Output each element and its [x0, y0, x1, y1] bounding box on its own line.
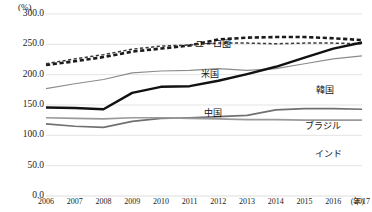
x-axis-tick: 2008	[95, 198, 111, 206]
series-label-china: 中国	[204, 109, 222, 118]
x-axis-tick: 2016	[325, 198, 341, 206]
y-axis-tick: 300.0	[0, 9, 44, 19]
y-axis-tick: 50.0	[0, 161, 44, 171]
plot-area: ユーロ圏米国韓国中国ブラジルインド	[46, 14, 362, 196]
series-label-korea: 韓国	[316, 86, 334, 95]
x-axis-tick: 2011	[182, 198, 198, 206]
series-label-india: インド	[315, 150, 342, 159]
y-axis-tick: 150.0	[0, 100, 44, 110]
x-axis-tick: 2015	[297, 198, 313, 206]
x-axis-tick: 2009	[124, 198, 140, 206]
y-axis-tick: 250.0	[0, 39, 44, 49]
series-label-usa: 米国	[201, 70, 219, 79]
x-axis-tick: 2010	[153, 198, 169, 206]
series-label-brazil: ブラジル	[305, 122, 341, 131]
series-line-インド	[46, 118, 362, 120]
x-axis-tick: 2014	[268, 198, 284, 206]
series-label-eurozone: ユーロ圏	[195, 40, 231, 49]
x-axis-tick: 2013	[239, 198, 255, 206]
y-axis-tick-labels: 0.050.0100.0150.0200.0250.0300.0	[0, 0, 44, 212]
x-axis-tick: 2012	[210, 198, 226, 206]
y-axis-tick: 100.0	[0, 130, 44, 140]
y-axis-tick: 200.0	[0, 70, 44, 80]
x-axis-tick: 2007	[67, 198, 83, 206]
x-axis-unit-label: (年)	[351, 198, 364, 206]
line-chart: (%) 0.050.0100.0150.0200.0250.0300.0 ユーロ…	[0, 0, 372, 212]
x-axis-tick: 2006	[38, 198, 54, 206]
x-axis-tick-labels: 2006200720082009201020112012201320142015…	[46, 198, 362, 212]
